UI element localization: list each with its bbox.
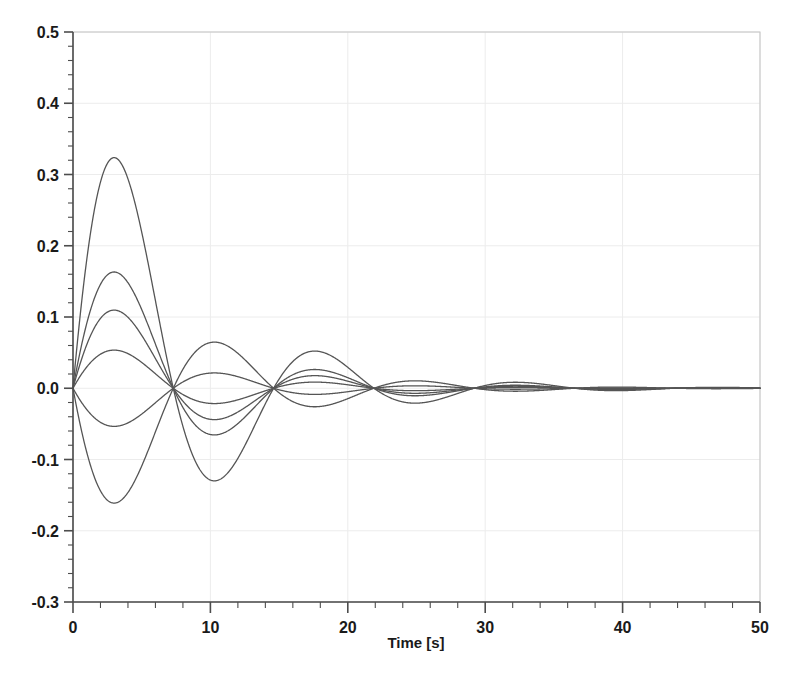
y-axis-tick-label: 0.5 xyxy=(37,24,59,41)
y-axis-tick-label: -0.3 xyxy=(31,594,59,611)
x-axis-tick-label: 20 xyxy=(339,619,357,636)
x-axis-tick-label: 10 xyxy=(202,619,220,636)
y-axis-tick-label: 0.2 xyxy=(37,238,59,255)
y-axis-tick-label: 0.4 xyxy=(37,95,59,112)
x-axis-tick-label: 0 xyxy=(69,619,78,636)
x-axis-label: Time [s] xyxy=(387,634,444,651)
x-axis-tick-label: 50 xyxy=(751,619,769,636)
y-axis-tick-label: -0.1 xyxy=(31,452,59,469)
damped-oscillation-chart: -0.3-0.2-0.10.00.10.20.30.40.5 010203040… xyxy=(0,0,794,677)
y-axis-tick-label: -0.2 xyxy=(31,523,59,540)
chart-figure: -0.3-0.2-0.10.00.10.20.30.40.5 010203040… xyxy=(0,0,794,677)
y-axis-tick-label: 0.1 xyxy=(37,309,59,326)
chart-background xyxy=(0,0,794,677)
x-axis-tick-label: 40 xyxy=(614,619,632,636)
y-axis-tick-label: 0.0 xyxy=(37,380,59,397)
x-axis-tick-label: 30 xyxy=(476,619,494,636)
y-axis-tick-label: 0.3 xyxy=(37,167,59,184)
